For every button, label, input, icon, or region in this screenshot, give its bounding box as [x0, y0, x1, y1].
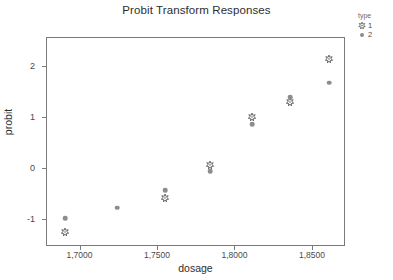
data-point-circle	[163, 188, 168, 193]
y-tick-mark	[42, 117, 47, 118]
x-tick-label: 1,7500	[144, 250, 170, 260]
y-tick-mark	[42, 66, 47, 67]
y-tick-label: 0	[30, 163, 35, 173]
x-tick-label: 1,8000	[221, 250, 247, 260]
y-axis-title: probit	[2, 109, 14, 135]
data-point-star	[161, 193, 170, 202]
legend-entries: 12	[358, 21, 372, 39]
data-point-star	[61, 228, 70, 237]
legend: type 12	[358, 11, 372, 39]
data-point-circle	[327, 81, 332, 86]
legend-title: type	[358, 11, 372, 20]
data-point-circle	[115, 205, 120, 210]
data-point-circle	[63, 216, 68, 221]
chart-canvas: Probit Transform Responses probit dosage…	[0, 0, 393, 280]
x-axis-title: dosage	[46, 262, 345, 274]
plot-area: 210-11,70001,75001,80001,8500	[46, 37, 345, 246]
data-point-star	[247, 112, 256, 121]
y-tick-label: 2	[30, 61, 35, 71]
y-tick-mark	[42, 168, 47, 169]
chart-title: Probit Transform Responses	[0, 4, 393, 16]
x-tick-label: 1,8500	[299, 250, 325, 260]
data-point-star	[324, 54, 333, 63]
legend-item-label: 2	[368, 30, 372, 40]
legend-item-2[interactable]: 2	[358, 30, 372, 39]
data-point-circle	[288, 95, 293, 100]
star-icon	[358, 22, 366, 30]
plot-inner: 210-11,70001,75001,80001,8500	[47, 38, 344, 245]
y-tick-label: 1	[30, 112, 35, 122]
circle-icon	[358, 31, 366, 39]
y-tick-mark	[42, 219, 47, 220]
y-tick-label: -1	[27, 214, 35, 224]
data-point-circle	[208, 169, 213, 174]
x-tick-label: 1,7000	[67, 250, 93, 260]
data-point-circle	[250, 122, 255, 127]
